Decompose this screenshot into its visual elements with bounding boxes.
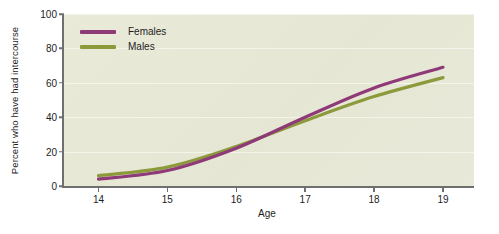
legend-label: Males xyxy=(128,41,155,52)
y-tick-label: 40 xyxy=(46,112,64,123)
legend-item-females: Females xyxy=(80,24,166,39)
plot-area: 020406080100 141516171819 FemalesMales xyxy=(62,14,474,188)
x-tick-label: 16 xyxy=(231,194,242,205)
x-tick-mark xyxy=(98,186,100,192)
x-tick-mark xyxy=(442,186,444,192)
y-tick-label: 80 xyxy=(46,43,64,54)
x-tick-label: 18 xyxy=(369,194,380,205)
series-line-males xyxy=(98,78,443,176)
x-tick-mark xyxy=(373,186,375,192)
x-axis-title: Age xyxy=(62,208,472,219)
x-tick-label: 17 xyxy=(300,194,311,205)
chart-figure: Percent who have had intercourse 0204060… xyxy=(0,0,499,234)
y-axis-title-text: Percent who have had intercourse xyxy=(9,26,20,173)
legend-swatch-icon xyxy=(80,30,116,34)
y-axis-title: Percent who have had intercourse xyxy=(8,14,21,186)
legend-item-males: Males xyxy=(80,39,166,54)
x-tick-mark xyxy=(236,186,238,192)
chart-legend: FemalesMales xyxy=(80,24,166,54)
x-tick-label: 19 xyxy=(437,194,448,205)
x-tick-mark xyxy=(167,186,169,192)
y-tick-label: 100 xyxy=(40,9,64,20)
series-line-females xyxy=(98,67,443,179)
legend-swatch-icon xyxy=(80,45,116,49)
x-tick-label: 15 xyxy=(162,194,173,205)
x-tick-label: 14 xyxy=(93,194,104,205)
y-tick-label: 20 xyxy=(46,146,64,157)
y-tick-label: 60 xyxy=(46,77,64,88)
x-tick-mark xyxy=(304,186,306,192)
y-tick-label: 0 xyxy=(51,181,64,192)
legend-label: Females xyxy=(128,26,166,37)
